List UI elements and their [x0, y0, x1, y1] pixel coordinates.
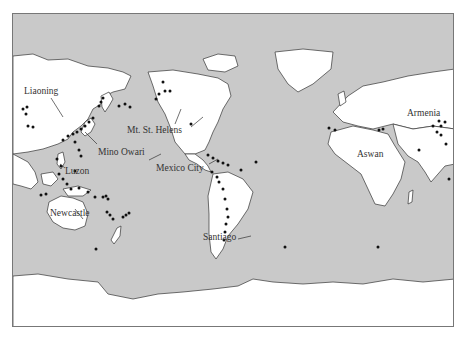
- land-greenland: [275, 49, 333, 92]
- label-armenia: Armenia: [407, 109, 440, 119]
- label-newcastle: Newcastle: [50, 209, 90, 219]
- land-arctic-islands: [203, 54, 238, 72]
- land-new-guinea: [63, 186, 91, 196]
- land-north-america: [148, 70, 231, 154]
- label-liaoning: Liaoning: [24, 87, 58, 97]
- land-asia-north: [13, 54, 131, 154]
- land-south-america: [208, 172, 253, 259]
- leader-santiago: [238, 236, 251, 239]
- land-madagascar: [408, 190, 413, 204]
- leader-mino-owari: [85, 132, 97, 144]
- land-europe: [333, 69, 454, 129]
- label-mt-st-helens: Mt. St. Helens: [127, 126, 182, 136]
- land-africa: [328, 126, 405, 206]
- land-antarctica: [13, 274, 454, 327]
- land-new-zealand: [111, 226, 121, 244]
- label-luzon: Luzon: [65, 167, 89, 177]
- leader-aswan: [149, 154, 161, 160]
- land-borneo: [41, 172, 58, 186]
- label-mexico-city: Mexico City: [156, 164, 204, 174]
- land-se-asia: [13, 154, 38, 189]
- label-santiago: Santiago: [203, 233, 236, 243]
- world-map: Liaoning Mino Owari Luzon Newcastle Mt. …: [12, 13, 454, 327]
- label-mino-owari: Mino Owari: [98, 148, 145, 158]
- label-aswan: Aswan: [357, 150, 383, 160]
- land-kamchatka: [101, 92, 113, 112]
